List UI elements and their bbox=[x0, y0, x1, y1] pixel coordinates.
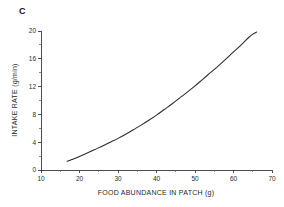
y-axis-tick-labels: 048121620 bbox=[29, 27, 37, 173]
x-tick-label: 70 bbox=[268, 175, 276, 182]
data-series-curve bbox=[67, 32, 256, 161]
x-tick-label: 30 bbox=[114, 175, 122, 182]
x-tick-label: 10 bbox=[37, 175, 45, 182]
y-axis-title: INTAKE RATE (g/min) bbox=[11, 63, 19, 136]
x-tick-label: 60 bbox=[230, 175, 238, 182]
page-bleed-text bbox=[14, 198, 270, 205]
x-axis-tick-labels: 10203040506070 bbox=[37, 175, 276, 182]
y-tick-label: 16 bbox=[29, 55, 37, 62]
chart-plot: 048121620 10203040506070 FOOD ABUNDANCE … bbox=[0, 0, 284, 207]
x-axis-title: FOOD ABUNDANCE IN PATCH (g) bbox=[98, 189, 215, 197]
x-tick-label: 50 bbox=[191, 175, 199, 182]
figure-panel-c: C 048121620 10203040506070 FOOD ABUNDANC… bbox=[0, 0, 284, 207]
y-tick-label: 12 bbox=[29, 83, 37, 90]
y-tick-label: 0 bbox=[32, 166, 36, 173]
y-axis-ticks bbox=[38, 31, 41, 170]
y-tick-label: 8 bbox=[32, 111, 36, 118]
y-tick-label: 20 bbox=[29, 27, 37, 34]
x-tick-label: 20 bbox=[76, 175, 84, 182]
x-tick-label: 40 bbox=[153, 175, 161, 182]
y-tick-label: 4 bbox=[32, 139, 36, 146]
x-axis-ticks bbox=[41, 170, 272, 173]
